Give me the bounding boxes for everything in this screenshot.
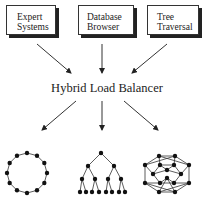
node — [42, 161, 46, 165]
node — [35, 188, 39, 192]
node — [35, 153, 39, 157]
edge — [145, 183, 159, 192]
node — [187, 163, 191, 167]
node — [157, 190, 161, 194]
node — [117, 190, 121, 194]
source-label: Traversal — [157, 22, 194, 32]
node — [151, 172, 155, 176]
node — [123, 190, 127, 194]
hypercube-topology — [143, 154, 191, 194]
node — [143, 181, 147, 185]
node — [15, 188, 19, 192]
edge — [88, 153, 101, 166]
source-label: Database — [87, 12, 129, 22]
node — [42, 181, 46, 185]
node — [99, 151, 103, 155]
edge — [101, 153, 114, 166]
node — [86, 164, 90, 168]
node — [165, 168, 169, 172]
node — [7, 161, 11, 165]
node — [173, 190, 177, 194]
arrow-expert — [37, 44, 71, 73]
source-label: Browser — [87, 22, 129, 32]
node — [25, 151, 29, 155]
node — [119, 177, 123, 181]
node — [15, 153, 19, 157]
node — [104, 190, 108, 194]
source-box-database-browser: Database Browser — [78, 5, 134, 35]
node — [78, 190, 82, 194]
edge — [175, 156, 189, 165]
node — [7, 181, 11, 185]
node — [106, 177, 110, 181]
node — [110, 190, 114, 194]
node — [80, 177, 84, 181]
node — [157, 154, 161, 158]
node — [179, 172, 183, 176]
node — [172, 181, 176, 185]
node — [165, 176, 169, 180]
source-label: Tree — [157, 12, 194, 22]
node — [97, 190, 101, 194]
node — [25, 191, 29, 195]
arrow-tree — [132, 44, 167, 73]
source-label: Systems — [17, 22, 51, 32]
node — [143, 163, 147, 167]
node — [158, 163, 162, 167]
edge — [88, 166, 95, 179]
node — [84, 190, 88, 194]
node — [5, 171, 9, 175]
edge — [175, 183, 189, 192]
node — [112, 164, 116, 168]
edge — [114, 166, 121, 179]
node — [93, 177, 97, 181]
load-balancer-label: Hybrid Load Balancer — [0, 81, 214, 96]
node — [45, 171, 49, 175]
node — [187, 181, 191, 185]
node — [158, 181, 162, 185]
arrow-hypercube — [124, 101, 158, 130]
edge — [145, 156, 159, 165]
tree-topology — [78, 151, 127, 194]
node — [173, 154, 177, 158]
source-box-tree-traversal: Tree Traversal — [147, 5, 199, 35]
source-box-expert-systems: Expert Systems — [6, 5, 56, 35]
source-label: Expert — [17, 12, 51, 22]
node — [90, 190, 94, 194]
arrow-ring — [42, 101, 76, 130]
ring-topology — [5, 151, 49, 195]
node — [172, 163, 176, 167]
